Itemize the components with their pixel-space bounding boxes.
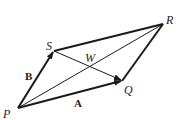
label-vector-A: A [74, 97, 82, 109]
label-P: P [2, 107, 11, 120]
diagonal-PR [18, 24, 163, 108]
label-S: S [46, 39, 52, 53]
label-vector-B: B [25, 70, 33, 82]
label-R: R [165, 13, 174, 27]
label-W: W [85, 51, 96, 65]
parallelogram-diagram: P Q R S W A B [0, 0, 183, 120]
label-Q: Q [124, 83, 133, 97]
